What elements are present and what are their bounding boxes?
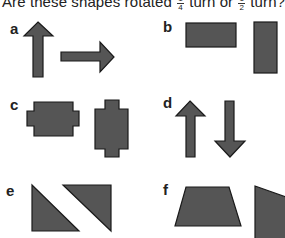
shape-f-trapezoid: [175, 187, 241, 226]
shape-d-arrow-down: [215, 101, 245, 157]
shape-b-rect-vertical: [254, 22, 277, 73]
shape-a-arrow-right: [61, 42, 114, 72]
shape-c-notched-vertical: [95, 100, 128, 157]
shape-c-notched-horizontal: [27, 102, 79, 136]
shape-b-rect-horizontal: [186, 23, 236, 47]
shape-f-trapezoid-rotated: [255, 186, 285, 238]
shapes-canvas: [0, 0, 285, 238]
shape-a-arrow-up: [24, 22, 53, 77]
shape-d-arrow-up: [176, 101, 205, 157]
